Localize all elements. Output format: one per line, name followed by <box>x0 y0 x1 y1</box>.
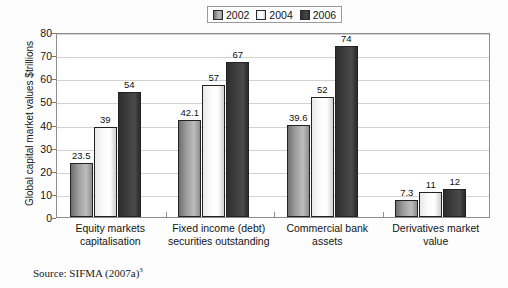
bar-2006-3 <box>335 46 358 217</box>
x-axis-label-line: Derivatives market <box>382 222 491 235</box>
bar-2006-4 <box>443 189 466 217</box>
bar-2004-3 <box>311 97 334 217</box>
source-footnote-marker: 3 <box>139 266 143 274</box>
bar-value-label-2002-4: 7.3 <box>391 188 422 198</box>
bar-2004-2 <box>202 85 225 217</box>
plot-area: 23.5395442.1576739.652747.31112 <box>56 33 490 218</box>
y-axis-tickmark <box>52 172 56 173</box>
bar-value-label-2006-4: 12 <box>439 177 470 187</box>
bar-value-label-2004-3: 52 <box>307 85 338 95</box>
y-axis-tick-labels: 01020304050607080 <box>26 33 52 230</box>
source-caption: Source: SIFMA (2007a)3 <box>33 266 143 279</box>
legend-item-2006: 2006 <box>300 10 336 20</box>
bar-group-3: 39.65274 <box>274 34 383 217</box>
y-axis-tick-80: 80 <box>26 28 52 39</box>
chart-legend: 2002 2004 2006 <box>207 6 342 23</box>
category-separator <box>274 212 275 217</box>
legend-swatch-2002 <box>213 10 223 20</box>
y-axis-tickmark <box>52 218 56 219</box>
bar-2006-2 <box>226 62 249 217</box>
legend-item-2004: 2004 <box>256 10 292 20</box>
x-axis-label-1: Equity marketscapitalisation <box>56 222 165 248</box>
y-axis-tickmark <box>52 195 56 196</box>
y-axis-tickmark <box>52 126 56 127</box>
bar-value-label-2004-1: 39 <box>90 115 121 125</box>
legend-swatch-2006 <box>300 10 310 20</box>
y-axis-tick-70: 70 <box>26 51 52 62</box>
bar-group-2: 42.15767 <box>166 34 275 217</box>
bar-group-4: 7.31112 <box>383 34 492 217</box>
y-axis-tickmark <box>52 102 56 103</box>
x-axis-label-2: Fixed income (debt)securities outstandin… <box>165 222 274 248</box>
bar-group-1: 23.53954 <box>57 34 166 217</box>
bar-2002-4 <box>395 200 418 217</box>
bar-value-label-2004-2: 57 <box>198 73 229 83</box>
y-axis-tickmark <box>52 149 56 150</box>
x-axis-label-line: Commercial bank <box>273 222 382 235</box>
bar-value-label-2002-3: 39.6 <box>283 113 314 123</box>
y-axis-tickmark <box>52 56 56 57</box>
bar-value-label-2002-1: 23.5 <box>66 151 97 161</box>
y-axis-tick-10: 10 <box>26 190 52 201</box>
y-axis-tick-50: 50 <box>26 97 52 108</box>
chart-figure: 2002 2004 2006 Global capital market val… <box>0 0 508 288</box>
x-axis-label-4: Derivatives marketvalue <box>382 222 491 248</box>
y-axis-tickmark <box>52 33 56 34</box>
bar-value-label-2002-2: 42.1 <box>174 108 205 118</box>
y-axis-tickmark <box>52 79 56 80</box>
y-axis-tick-40: 40 <box>26 121 52 132</box>
category-separator <box>166 212 167 217</box>
legend-swatch-2004 <box>256 10 266 20</box>
y-axis-tick-30: 30 <box>26 144 52 155</box>
y-axis-tick-20: 20 <box>26 167 52 178</box>
legend-label-2006: 2006 <box>313 10 336 20</box>
y-axis-tick-60: 60 <box>26 74 52 85</box>
x-axis-label-line: Equity markets <box>56 222 165 235</box>
category-separator <box>383 212 384 217</box>
source-text: Source: SIFMA (2007a) <box>33 267 139 279</box>
bar-value-label-2006-2: 67 <box>222 50 253 60</box>
x-axis-label-3: Commercial bankassets <box>273 222 382 248</box>
bar-value-label-2006-3: 74 <box>331 34 362 44</box>
y-axis-tick-0: 0 <box>26 213 52 224</box>
bar-2004-1 <box>94 127 117 217</box>
bar-2002-1 <box>70 163 93 217</box>
bar-value-label-2006-1: 54 <box>114 80 145 90</box>
bar-2006-1 <box>118 92 141 217</box>
bar-2002-2 <box>178 120 201 217</box>
legend-item-2002: 2002 <box>213 10 249 20</box>
bar-2002-3 <box>287 125 310 217</box>
bar-2004-4 <box>419 192 442 217</box>
x-axis-label-line: value <box>382 235 491 248</box>
x-axis-category-labels: Equity marketscapitalisationFixed income… <box>56 222 490 256</box>
x-axis-label-line: securities outstanding <box>165 235 274 248</box>
x-axis-label-line: assets <box>273 235 382 248</box>
x-axis-label-line: Fixed income (debt) <box>165 222 274 235</box>
bar-series-container: 23.5395442.1576739.652747.31112 <box>57 34 489 217</box>
legend-label-2004: 2004 <box>269 10 292 20</box>
x-axis-label-line: capitalisation <box>56 235 165 248</box>
legend-label-2002: 2002 <box>226 10 249 20</box>
